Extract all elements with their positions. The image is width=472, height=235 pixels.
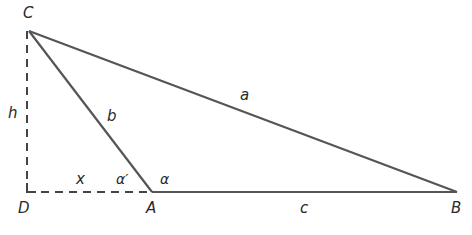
altitude-label-h: h [8, 106, 18, 121]
vertex-label-c: C [23, 6, 33, 21]
side-label-a: a [240, 88, 249, 103]
side-label-c: c [300, 201, 308, 216]
angle-label-alpha: α [160, 172, 169, 186]
side-a [29, 31, 457, 192]
angle-label-alpha-prime: α′ [116, 172, 128, 186]
segment-label-x: x [76, 172, 85, 187]
vertex-label-a: A [146, 201, 156, 216]
vertex-label-b: B [451, 201, 461, 216]
triangle-diagram [0, 0, 472, 235]
side-label-b: b [107, 109, 117, 124]
vertex-label-d: D [18, 201, 30, 216]
right-angle-mark [27, 183, 36, 192]
